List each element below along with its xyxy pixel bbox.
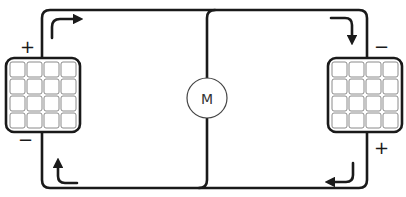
left-panel-positive-label: + [20, 38, 35, 56]
arrow-bottom-right-icon [330, 163, 353, 182]
middle-wire-bottom [199, 118, 207, 188]
arrow-top-right-icon [331, 18, 352, 40]
motor-label: M [201, 92, 213, 106]
solar-panel-left [6, 58, 80, 132]
arrow-bottom-left-icon [58, 163, 77, 183]
arrow-top-left-icon [52, 19, 78, 38]
right-panel-negative-label: − [374, 38, 389, 56]
right-panel-positive-label: + [374, 139, 389, 157]
bottom-wire [42, 132, 367, 188]
middle-wire-top [207, 10, 215, 78]
top-wire [42, 10, 367, 58]
left-panel-negative-label: − [18, 131, 33, 149]
solar-panel-right [328, 58, 402, 132]
